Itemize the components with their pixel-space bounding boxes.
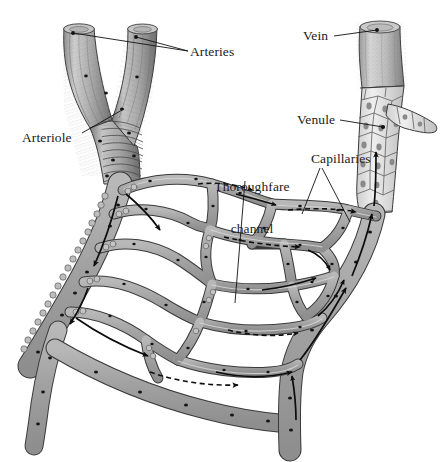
label-arteriole: Arteriole bbox=[22, 131, 72, 145]
microcirculation-figure: capillaries in smooth muscle of the arte… bbox=[0, 0, 441, 462]
label-vein: Vein bbox=[303, 29, 328, 43]
label-thoroughfare-channel-line2: channel bbox=[206, 222, 298, 236]
label-thoroughfare-channel-line1: Thoroughfare bbox=[206, 180, 298, 194]
label-capillaries: Capillaries bbox=[311, 152, 371, 166]
label-thoroughfare-channel: Thoroughfare channel bbox=[206, 152, 298, 264]
label-arteries: Arteries bbox=[190, 45, 234, 59]
label-venule: Venule bbox=[297, 113, 335, 127]
